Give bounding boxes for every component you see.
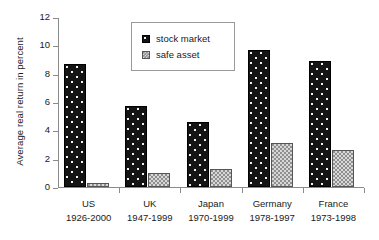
bar-safe-asset <box>87 183 109 187</box>
y-tick-label: 10 <box>28 39 50 50</box>
bar-safe-asset <box>271 143 293 187</box>
legend-item-stock-market: stock market <box>142 31 234 46</box>
y-tick-mark <box>53 160 58 161</box>
x-category-name: France <box>297 197 370 211</box>
bar-group <box>248 18 293 187</box>
y-tick-label: 6 <box>28 96 50 107</box>
bar-stock-market <box>125 106 147 187</box>
legend-swatch-stock-market-icon <box>142 35 150 43</box>
x-tick-mark <box>242 188 243 193</box>
x-tick-mark <box>119 188 120 193</box>
bar-group <box>309 18 354 187</box>
legend: stock market safe asset <box>131 22 235 71</box>
bar-group <box>64 18 109 187</box>
y-tick-mark <box>53 188 58 189</box>
y-tick-mark <box>53 103 58 104</box>
legend-item-safe-asset: safe asset <box>142 47 234 62</box>
bar-safe-asset <box>332 150 354 187</box>
bar-stock-market <box>248 50 270 187</box>
legend-label-safe-asset: safe asset <box>156 49 199 60</box>
x-tick-mark <box>180 188 181 193</box>
x-tick-mark <box>303 188 304 193</box>
bar-chart: Average real return in percent 024681012… <box>0 0 379 240</box>
bar-stock-market <box>64 64 86 187</box>
x-tick-mark <box>364 188 365 193</box>
bar-safe-asset <box>210 169 232 187</box>
bar-safe-asset <box>148 173 170 187</box>
y-tick-label: 2 <box>28 153 50 164</box>
y-axis-line <box>58 18 59 188</box>
bar-stock-market <box>309 61 331 187</box>
y-tick-mark <box>53 18 58 19</box>
legend-label-stock-market: stock market <box>156 33 210 44</box>
legend-swatch-safe-asset-icon <box>142 51 150 59</box>
x-axis-line <box>58 187 364 188</box>
y-tick-label: 12 <box>28 11 50 22</box>
y-tick-mark <box>53 46 58 47</box>
y-tick-mark <box>53 131 58 132</box>
y-axis-title: Average real return in percent <box>14 17 25 187</box>
y-tick-label: 8 <box>28 68 50 79</box>
y-tick-mark <box>53 75 58 76</box>
bar-stock-market <box>187 122 209 187</box>
y-tick-label: 0 <box>28 181 50 192</box>
x-category-label: France1973-1998 <box>297 197 370 225</box>
x-category-period: 1973-1998 <box>297 211 370 225</box>
y-tick-label: 4 <box>28 124 50 135</box>
